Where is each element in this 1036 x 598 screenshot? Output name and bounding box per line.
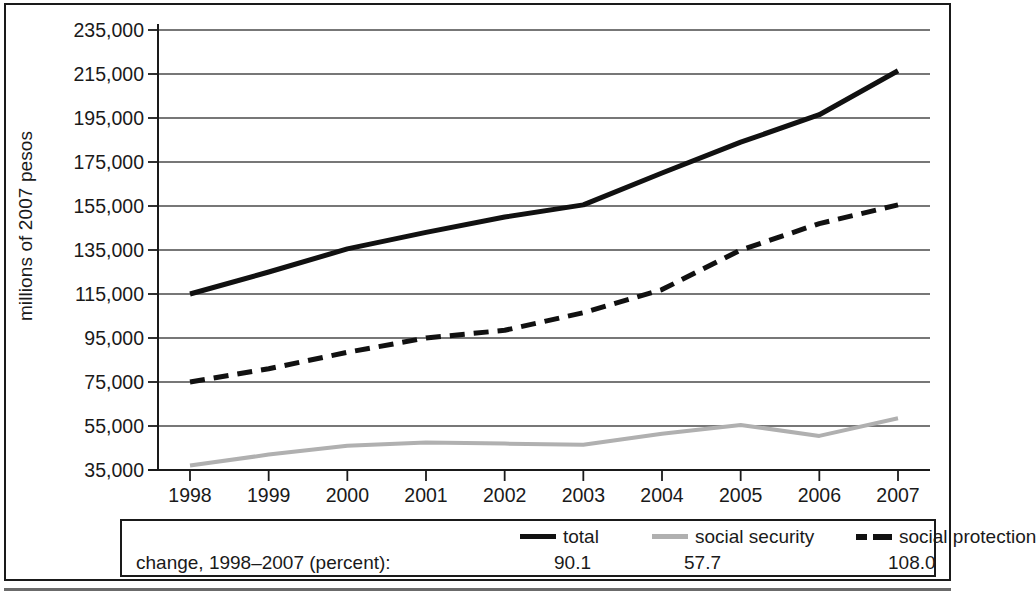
y-axis-tick-label: 155,000 — [24, 195, 144, 218]
legend-value-total: 90.1 — [554, 549, 591, 576]
legend-entry-total: total — [520, 523, 599, 550]
y-axis-tick-label: 115,000 — [24, 283, 144, 306]
y-axis-tick-label: 95,000 — [24, 327, 144, 350]
legend-value-social-security: 57.7 — [684, 549, 721, 576]
x-axis-tick-label: 2007 — [853, 484, 943, 507]
x-axis-tick-label: 2004 — [617, 484, 707, 507]
axis-lines — [148, 24, 930, 470]
legend-swatch-social-security-line-icon — [652, 534, 688, 539]
axis-ticks — [148, 30, 898, 481]
x-axis-tick-label: 1999 — [224, 484, 314, 507]
y-axis-tick-label: 75,000 — [24, 371, 144, 394]
x-axis-tick-label: 2001 — [381, 484, 471, 507]
x-axis-tick-label: 2002 — [460, 484, 550, 507]
y-axis-tick-label: 235,000 — [24, 19, 144, 42]
change-period-label: change, 1998–2007 (percent): — [136, 549, 391, 576]
legend-swatch-total-line-icon — [520, 534, 556, 539]
data-series — [190, 71, 898, 466]
legend-keys-row: total social security social protection — [122, 523, 934, 550]
y-axis-tick-label: 195,000 — [24, 107, 144, 130]
legend-entry-social-security: social security — [652, 523, 814, 550]
legend-value-social-protection: 108.0 — [888, 549, 936, 576]
series-line-total — [190, 71, 898, 294]
y-axis-tick-label: 135,000 — [24, 239, 144, 262]
legend-label-social-security: social security — [695, 526, 814, 548]
y-axis-tick-label: 55,000 — [24, 415, 144, 438]
x-axis-tick-label: 2006 — [774, 484, 864, 507]
y-axis-tick-label: 215,000 — [24, 63, 144, 86]
legend-label-social-protection: social protection — [899, 526, 1036, 548]
legend-entry-social-protection: social protection — [856, 523, 1036, 550]
y-axis-tick-label: 35,000 — [24, 459, 144, 482]
x-axis-tick-label: 1998 — [145, 484, 235, 507]
x-axis-tick-label: 2000 — [302, 484, 392, 507]
chart-legend: total social security social protection … — [120, 519, 936, 577]
x-axis-tick-label: 2005 — [696, 484, 786, 507]
legend-label-total: total — [563, 526, 599, 548]
legend-values-row: change, 1998–2007 (percent): 90.1 57.7 1… — [122, 549, 934, 576]
legend-swatch-social-protection-line-icon — [856, 534, 892, 540]
x-axis-tick-label: 2003 — [538, 484, 628, 507]
y-axis-tick-label: 175,000 — [24, 151, 144, 174]
